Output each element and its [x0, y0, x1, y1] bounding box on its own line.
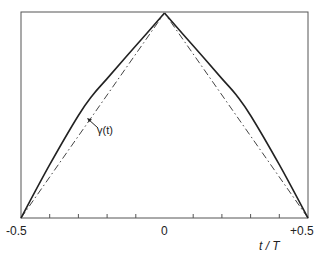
x-axis-label: t / T	[259, 239, 280, 253]
x-tick-label-right: +0.5	[290, 224, 314, 238]
plot-frame	[21, 12, 308, 218]
x-axis-ticks	[50, 214, 280, 218]
gamma-annotation-label: γ(t)	[97, 124, 113, 136]
x-tick-label-center: 0	[161, 224, 168, 238]
gamma-curve	[21, 13, 308, 218]
x-tick-label-left: -0.5	[6, 224, 27, 238]
chart-plot-area	[0, 0, 328, 254]
triangle-reference-line	[21, 13, 308, 218]
